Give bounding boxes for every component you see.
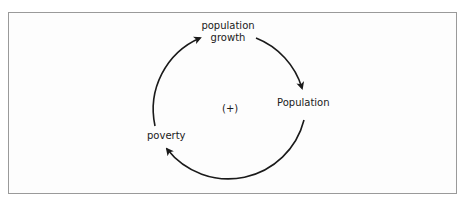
arrow-growth-to-population (256, 38, 302, 88)
arrow-population-to-poverty (167, 120, 304, 179)
node-poverty: poverty (147, 130, 186, 142)
node-population-growth: population growth (196, 20, 260, 44)
node-population-growth-line1: population (196, 20, 260, 32)
arrow-poverty-to-growth (153, 38, 200, 126)
loop-polarity-label: (+) (222, 103, 238, 115)
node-population-growth-line2: growth (196, 32, 260, 44)
node-population: Population (277, 97, 330, 109)
